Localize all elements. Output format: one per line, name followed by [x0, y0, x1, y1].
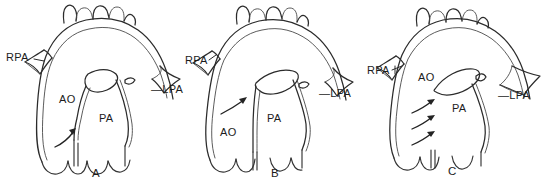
label-lpa-c: —LPA: [498, 90, 530, 101]
label-lpa-b: —LPA: [319, 88, 351, 99]
label-ao-a: AO: [59, 94, 76, 105]
label-ao-b: AO: [220, 127, 237, 138]
label-lpa-a: —LPA: [151, 84, 183, 95]
panel-letter-c: C: [448, 166, 456, 178]
panel-letter-b: B: [271, 168, 279, 180]
panel-c: RPA AO PA —LPA: [364, 0, 546, 189]
label-pa-c: PA: [452, 103, 466, 114]
label-ao-c: AO: [418, 72, 435, 83]
panel-b: RPA AO PA —LPA: [182, 0, 364, 189]
panel-a: RPA AO PA —LPA: [0, 0, 182, 189]
label-pa-b: PA: [267, 113, 281, 124]
label-pa-a: PA: [99, 113, 113, 124]
panel-letter-a: A: [92, 168, 100, 180]
anatomical-figure: RPA AO PA —LPA: [0, 0, 546, 189]
